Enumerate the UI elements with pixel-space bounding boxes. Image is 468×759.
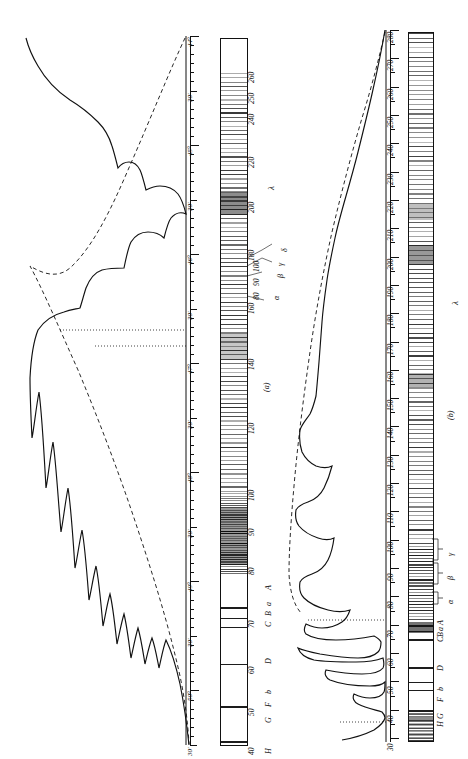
panel-a: 44°30'45°30'46°30'47°30'48°30'49°30'50°3… (0, 0, 290, 759)
panel-a-caption: (a) (262, 383, 271, 392)
series-label-alpha: α (446, 600, 455, 604)
panel-b: 3040506070809010011012013014015016017018… (280, 0, 468, 759)
panel-a-lambda-label: λ (266, 186, 276, 190)
series-label-beta: β (446, 576, 455, 580)
series-label-gamma: γ (446, 553, 455, 556)
panel-b-caption: (b) (446, 411, 455, 420)
lead-value-100: 100 (252, 261, 261, 272)
panel-a-series-labels: αβγδ8090100 (0, 0, 290, 759)
panel-b-lambda-label: λ (450, 301, 460, 305)
lead-value-80: 80 (252, 293, 261, 301)
lead-value-90: 90 (252, 279, 261, 287)
panel-b-series-labels: αβγ (280, 0, 468, 759)
